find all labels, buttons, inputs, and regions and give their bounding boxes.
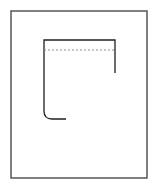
technical-drawing-figure <box>0 0 158 192</box>
drawing-canvas <box>0 0 158 192</box>
canvas-background <box>0 0 158 192</box>
